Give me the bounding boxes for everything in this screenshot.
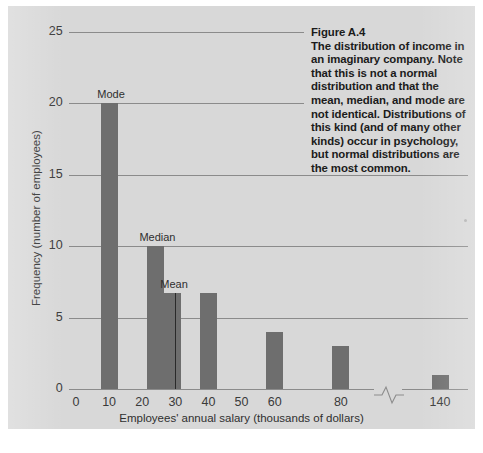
- bar-annotation-label: Mode: [97, 88, 125, 100]
- bar: [147, 246, 164, 389]
- x-tick-label: 60: [268, 395, 282, 409]
- axis-break-icon: [374, 384, 404, 406]
- y-axis-title: Frequency (number of employees): [30, 130, 42, 306]
- y-tick-label: 0: [37, 381, 63, 395]
- x-tick-label: 40: [201, 395, 215, 409]
- bar: [332, 346, 349, 389]
- x-tick-label: 140: [430, 395, 451, 409]
- x-tick-label: 20: [135, 395, 149, 409]
- x-axis-baseline-after-break: [402, 389, 468, 390]
- y-tick-label: 5: [37, 310, 63, 324]
- mean-marker-line: [175, 293, 176, 389]
- y-tick-label: 25: [37, 24, 63, 38]
- scan-speck: [464, 219, 467, 222]
- bar: [101, 103, 118, 389]
- x-tick-label: 10: [102, 395, 116, 409]
- figure-caption-body: The distribution of income in an imagina…: [311, 40, 471, 176]
- figure-caption-title: Figure A.4: [311, 26, 471, 40]
- figure-caption: Figure A.4 The distribution of income in…: [311, 26, 471, 176]
- bar: [200, 293, 217, 389]
- gridline: [69, 246, 468, 247]
- x-tick-label: 30: [168, 395, 182, 409]
- gridline: [69, 32, 304, 33]
- bar: [266, 332, 283, 389]
- y-tick-label: 20: [37, 95, 63, 109]
- x-axis-title: Employees' annual salary (thousands of d…: [8, 412, 475, 424]
- x-tick-label: 0: [73, 395, 80, 409]
- bar: [432, 375, 449, 389]
- x-tick-label: 50: [235, 395, 249, 409]
- bar-annotation-label: Mean: [160, 278, 188, 290]
- figure-panel: 0510152025 ModeMedianMean 01020304050608…: [8, 6, 475, 429]
- x-axis-baseline: [69, 389, 374, 390]
- x-tick-label: 80: [334, 395, 348, 409]
- bar-annotation-label: Median: [139, 231, 175, 243]
- bar: [164, 293, 181, 389]
- gridline: [69, 318, 468, 319]
